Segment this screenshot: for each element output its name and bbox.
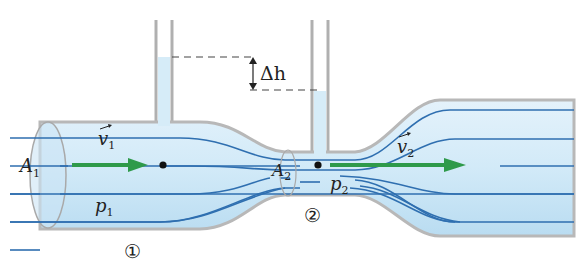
delta-h-label: Δh: [260, 62, 286, 84]
section-1-marker: ①: [124, 240, 141, 262]
venturi-diagram: Δh A1 A2 v1 v2 p1 p2 ① ②: [0, 0, 579, 262]
height-difference-marker: [172, 57, 318, 90]
section-2-marker: ②: [304, 204, 321, 226]
point-1: [159, 161, 166, 168]
point-2: [314, 161, 321, 168]
